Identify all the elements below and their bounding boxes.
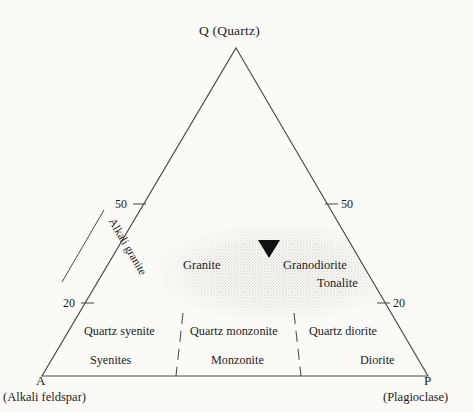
field-label-quartz-diorite: Quartz diorite [309,325,377,338]
field-label-monzonite: Monzonite [211,354,264,367]
alkali-granite-boundary-line [62,210,104,282]
vertex-sublabel-alkali-feldspar: (Alkali feldspar) [3,391,86,404]
field-label-quartz-monzonite: Quartz monzonite [190,325,278,338]
vertex-label-a: A [36,374,45,388]
field-label-granite: Granite [183,259,220,272]
field-label-granodiorite: Granodiorite [283,259,347,272]
stippled-granitoid-field [150,215,410,333]
tick-label-left-50: 50 [115,198,127,211]
field-label-diorite: Diorite [360,354,395,367]
field-label-quartz-syenite: Quartz syenite [84,325,155,338]
tick-label-right-20: 20 [393,297,405,310]
tick-label-left-20: 20 [63,297,75,310]
vertex-sublabel-plagioclase: (Plagioclase) [383,391,448,404]
field-label-syenites: Syenites [90,354,131,367]
apex-label-quartz: Q (Quartz) [199,24,260,38]
tick-label-right-50: 50 [341,198,353,211]
vertex-label-p: P [424,374,431,388]
ternary-diagram-root: Q (Quartz) A (Alkali feldspar) P (Plagio… [0,0,473,412]
diagram-canvas [0,0,473,412]
field-label-tonalite: Tonalite [317,277,358,290]
